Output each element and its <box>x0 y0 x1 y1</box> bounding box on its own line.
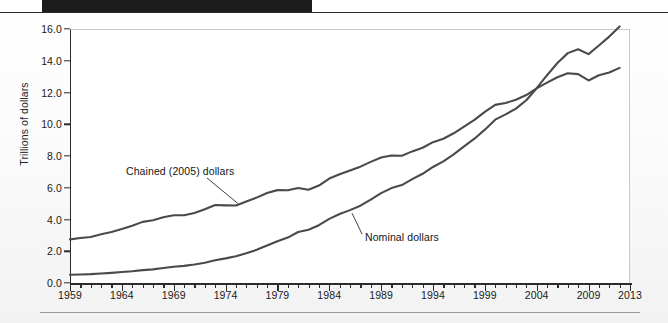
annotation-chained-dollars: Chained (2005) dollars <box>126 165 234 177</box>
leader-line-chained <box>207 178 238 204</box>
chart-lines-overlay <box>0 0 668 323</box>
annotation-nominal-dollars: Nominal dollars <box>365 231 439 243</box>
line-nominal-dollars <box>70 26 620 274</box>
leader-line-nominal <box>352 213 362 234</box>
line-chained-dollars <box>70 68 620 239</box>
figure-container: Trillions of dollars 0.02.04.06.08.010.0… <box>0 0 668 323</box>
